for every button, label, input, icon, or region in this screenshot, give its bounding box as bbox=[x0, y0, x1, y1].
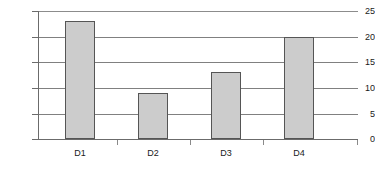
bar-chart: 25 20 15 10 5 0 D1 D2 D3 D4 bbox=[0, 0, 375, 171]
bar-d1 bbox=[65, 21, 95, 139]
x-axis-tick-mark bbox=[357, 140, 358, 145]
gridline bbox=[38, 11, 358, 12]
x-axis-label-d2: D2 bbox=[123, 148, 183, 158]
x-axis-tick-mark bbox=[263, 140, 264, 145]
bar-d4 bbox=[284, 37, 314, 139]
x-axis-tick-mark bbox=[117, 140, 118, 145]
x-axis-label-d4: D4 bbox=[269, 148, 329, 158]
x-axis-tick-mark bbox=[190, 140, 191, 145]
bar-d2 bbox=[138, 93, 168, 139]
y-axis-line bbox=[38, 11, 39, 140]
bar-d3 bbox=[211, 72, 241, 139]
x-axis-label-d3: D3 bbox=[196, 148, 256, 158]
x-axis-line bbox=[38, 139, 358, 140]
x-axis-label-d1: D1 bbox=[50, 148, 110, 158]
